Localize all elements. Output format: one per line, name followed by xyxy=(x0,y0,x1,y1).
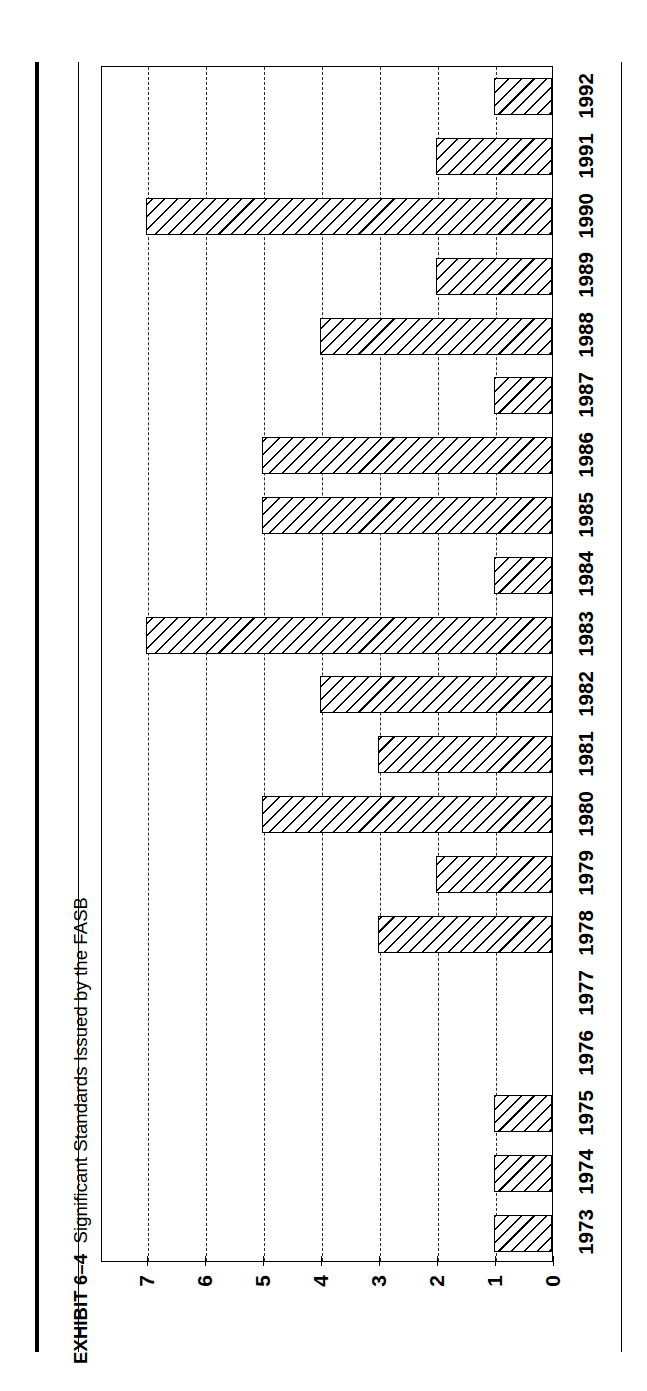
year-axis-label-1981: 1981 xyxy=(574,721,598,787)
bar-1982 xyxy=(146,617,552,654)
bar-1976 xyxy=(436,258,552,295)
year-axis-label-1975: 1975 xyxy=(574,1080,598,1146)
bar-chart-plot-area xyxy=(101,66,553,1262)
value-axis-label-5: 5 xyxy=(248,1266,278,1296)
year-axis-label-1986: 1986 xyxy=(574,422,598,488)
page-rule-thick xyxy=(35,62,39,1352)
gridline-4 xyxy=(322,67,323,1261)
year-axis-label-1989: 1989 xyxy=(574,242,598,308)
value-tick-6 xyxy=(205,1256,206,1266)
value-axis-label-1: 1 xyxy=(480,1266,510,1296)
exhibit-title: EXHIBIT 6–4 Significant Standards Issued… xyxy=(72,134,91,1364)
exhibit-label: EXHIBIT 6–4 xyxy=(70,1254,91,1364)
value-tick-2 xyxy=(437,1256,438,1266)
year-axis-label-1987: 1987 xyxy=(574,362,598,428)
gridline-2 xyxy=(438,67,439,1261)
bar-1984 xyxy=(378,736,552,773)
value-tick-3 xyxy=(379,1256,380,1266)
year-axis-label-1990: 1990 xyxy=(574,183,598,249)
bar-1985 xyxy=(262,796,552,833)
bar-1977 xyxy=(320,318,552,355)
bar-1979 xyxy=(262,437,552,474)
gridline-3 xyxy=(380,67,381,1261)
bar-1973 xyxy=(494,78,552,115)
bar-1983 xyxy=(320,676,552,713)
bar-1975 xyxy=(146,198,552,235)
page-rule-thin-right xyxy=(621,62,622,1352)
value-tick-4 xyxy=(321,1256,322,1266)
value-tick-1 xyxy=(495,1256,496,1266)
value-tick-5 xyxy=(263,1256,264,1266)
year-axis-label-1973: 1973 xyxy=(574,1199,598,1265)
year-axis-label-1992: 1992 xyxy=(574,63,598,129)
gridline-7 xyxy=(148,67,149,1261)
year-axis-label-1977: 1977 xyxy=(574,960,598,1026)
year-axis-label-1991: 1991 xyxy=(574,123,598,189)
year-axis-label-1974: 1974 xyxy=(574,1139,598,1205)
bar-1987 xyxy=(378,916,552,953)
value-axis-label-6: 6 xyxy=(190,1266,220,1296)
year-axis-label-1978: 1978 xyxy=(574,900,598,966)
year-axis-label-1984: 1984 xyxy=(574,541,598,607)
year-axis-label-1985: 1985 xyxy=(574,482,598,548)
year-axis-label-1982: 1982 xyxy=(574,661,598,727)
bar-1978 xyxy=(494,377,552,414)
bar-1980 xyxy=(262,497,552,534)
year-axis-label-1980: 1980 xyxy=(574,781,598,847)
value-tick-7 xyxy=(147,1256,148,1266)
year-axis-label-1976: 1976 xyxy=(574,1020,598,1086)
bar-1990 xyxy=(494,1095,552,1132)
value-axis: 76543210 xyxy=(101,1266,553,1326)
value-axis-label-3: 3 xyxy=(364,1266,394,1296)
year-axis-label-1979: 1979 xyxy=(574,840,598,906)
bar-1992 xyxy=(494,1215,552,1252)
year-axis-label-1983: 1983 xyxy=(574,601,598,667)
gridline-6 xyxy=(206,67,207,1261)
year-axis-label-1988: 1988 xyxy=(574,302,598,368)
gridline-5 xyxy=(264,67,265,1261)
gridline-1 xyxy=(496,67,497,1261)
bar-1986 xyxy=(436,856,552,893)
category-axis: 1973197419751976197719781979198019811982… xyxy=(553,66,619,1262)
value-axis-label-4: 4 xyxy=(306,1266,336,1296)
value-axis-label-2: 2 xyxy=(422,1266,452,1296)
bar-1991 xyxy=(494,1155,552,1192)
value-axis-label-0: 0 xyxy=(538,1266,568,1296)
bar-1981 xyxy=(494,557,552,594)
bar-1974 xyxy=(436,138,552,175)
exhibit-title-text: Significant Standards Issued by the FASB xyxy=(70,897,91,1243)
value-axis-label-7: 7 xyxy=(132,1266,162,1296)
